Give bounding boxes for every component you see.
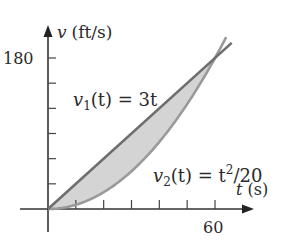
y-axis-label: v(ft/s)	[57, 22, 112, 42]
y-axis-arrow-icon	[44, 25, 53, 37]
y-axis-ticks	[48, 58, 56, 184]
y-tick-label-180: 180	[3, 49, 34, 68]
v2-label: v2(t) = t2/20	[153, 163, 262, 189]
v1-label: v1(t) = 3t	[73, 89, 158, 113]
x-axis-arrow-icon	[242, 205, 254, 214]
x-axis-ticks	[76, 200, 215, 209]
chart-canvas: v(ft/s) 180 t(s) 60 v1(t) = 3t v2(t) = t…	[0, 0, 286, 244]
x-tick-label-60: 60	[203, 218, 223, 237]
velocity-chart: v(ft/s) 180 t(s) 60 v1(t) = 3t v2(t) = t…	[0, 0, 286, 244]
